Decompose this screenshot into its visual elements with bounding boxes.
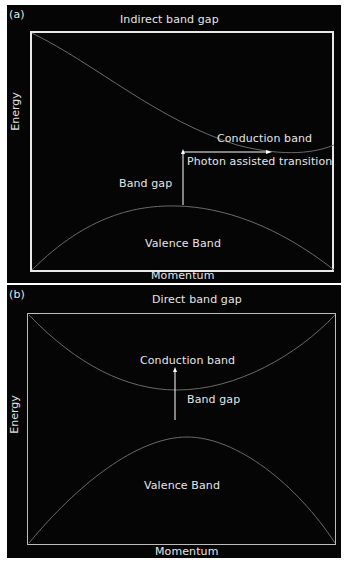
band-gap-label-b: Band gap <box>187 393 240 406</box>
photon-transition-label-a: Photon assisted transition <box>187 155 332 168</box>
x-axis-label-a: Momentum <box>151 269 214 282</box>
panel-direct-band-gap: (b) Direct band gap Energy Conduction ba… <box>7 285 341 558</box>
conduction-band-label-a: Conduction band <box>217 132 312 145</box>
valence-band-label-a: Valence Band <box>145 237 221 250</box>
x-axis-label-b: Momentum <box>155 545 218 558</box>
band-curves-b <box>7 285 341 558</box>
valence-band-label-b: Valence Band <box>144 479 220 492</box>
photon-transition-arrowhead-a <box>266 150 272 154</box>
conduction-band-curve-b <box>29 315 335 390</box>
band-gap-arrowhead-b <box>173 367 177 372</box>
band-gap-label-a: Band gap <box>119 177 172 190</box>
panel-indirect-band-gap: (a) Indirect band gap Energy Conduction … <box>7 5 341 283</box>
conduction-band-label-b: Conduction band <box>140 354 235 367</box>
